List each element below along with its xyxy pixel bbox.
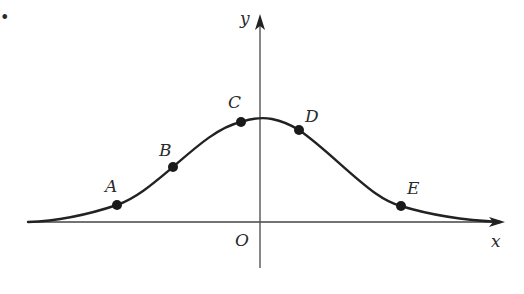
graph-canvas	[0, 0, 524, 294]
bell-curve-figure: • y x O A B C D E	[0, 0, 524, 294]
point-b	[168, 162, 178, 172]
bell-curve	[28, 118, 500, 222]
y-axis-label: y	[240, 10, 250, 27]
point-d-label: D	[305, 108, 319, 125]
point-b-label: B	[159, 142, 172, 159]
point-d	[294, 125, 304, 135]
x-axis-label: x	[491, 233, 501, 250]
point-a	[112, 200, 122, 210]
point-c-label: C	[228, 94, 241, 111]
stray-dot: •	[0, 10, 9, 26]
point-c	[236, 117, 246, 127]
point-e-label: E	[407, 180, 419, 197]
point-a-label: A	[105, 178, 117, 195]
point-e	[396, 201, 406, 211]
origin-label: O	[235, 232, 249, 249]
